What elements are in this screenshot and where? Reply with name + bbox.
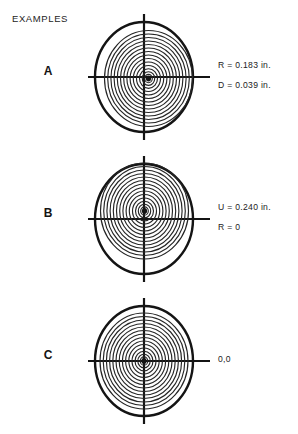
target-diagram-b [88,156,210,282]
annotation-a-line1: R = 0.183 in. [218,60,271,70]
bullseye-svg-b [88,156,210,282]
bullseye-svg-a [88,14,210,140]
center-dot-b [142,208,147,214]
example-row-b: B [0,156,298,296]
annotation-b-line1: U = 0.240 in. [218,202,271,212]
annotation-c-line1: 0,0 [218,354,231,364]
target-diagram-a [88,14,210,140]
example-row-c: C [0,298,298,434]
examples-page: EXAMPLES A [0,0,298,434]
annotation-b-line2: R = 0 [218,222,240,232]
example-letter-a: A [38,64,58,78]
bullseye-svg-c [88,298,210,424]
annotation-a-line2: D = 0.039 in. [218,80,271,90]
example-letter-b: B [38,206,58,220]
center-dot-c [141,358,146,364]
center-dot-a [146,76,151,82]
example-row-a: A [0,14,298,154]
example-letter-c: C [38,348,58,362]
target-diagram-c [88,298,210,424]
